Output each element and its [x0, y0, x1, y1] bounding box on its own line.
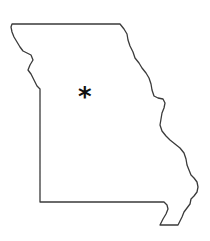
missouri-map	[0, 0, 210, 241]
asterisk-marker-icon: *	[78, 84, 92, 110]
state-outline	[11, 24, 198, 225]
